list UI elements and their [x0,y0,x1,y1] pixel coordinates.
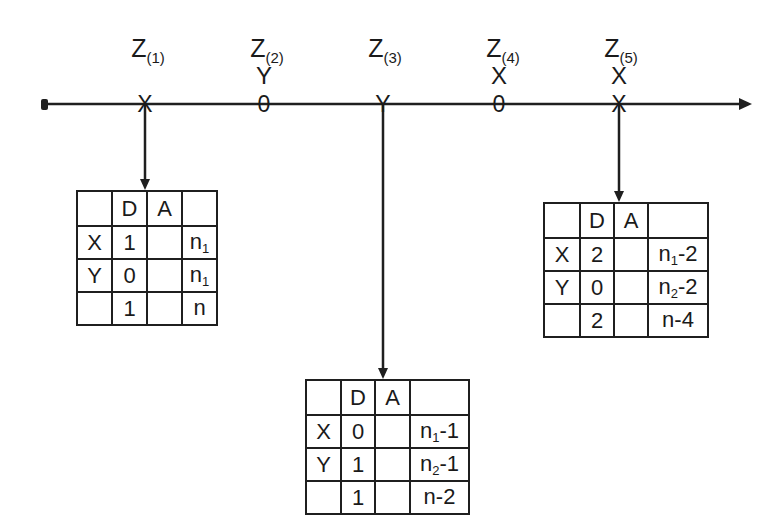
a-value [147,226,182,259]
table-row: Y 1 n2-1 [306,448,469,481]
d-value: 2 [580,238,614,271]
position-label-1: Z(1) [131,36,165,65]
n-value: n1 [182,226,217,259]
n-suffix: -2 [678,241,698,266]
d-value: 0 [341,415,375,448]
position-letter: Z [604,34,619,62]
a-value [375,415,410,448]
n-value: n [182,292,217,325]
n-suffix: -2 [678,274,698,299]
a-value [614,304,648,337]
n-base: n [190,229,202,254]
connector-arrow-1 [140,179,150,190]
above-letter-2: Y [256,64,272,88]
row-label [544,304,580,337]
header-cell-d: D [112,191,147,226]
n-subscript: 1 [671,253,678,268]
table-row: X 0 n1-1 [306,415,469,448]
a-value [375,448,410,481]
n-base: n [190,262,202,287]
table-row: Y 0 n2-2 [544,271,708,304]
n-value: n-2 [410,481,469,514]
d-value: 0 [112,259,147,292]
axis-start-dot [41,99,48,110]
header-cell-empty [306,380,341,415]
n-value: n1-2 [648,238,708,271]
a-value [375,481,410,514]
axis-marker-5-x-mark: X [611,93,626,116]
header-cell-d: D [341,380,375,415]
axis-arrow-head [739,98,752,110]
above-letter-5: X [611,64,627,88]
header-cell-n [410,380,469,415]
row-label: Y [306,448,341,481]
position-label-4: Z(4) [486,36,520,65]
row-label: X [306,415,341,448]
position-label-2: Z(2) [250,36,284,65]
n-base: n [658,274,670,299]
table-row: 1 n-2 [306,481,469,514]
a-value [147,259,182,292]
n-subscript: 1 [202,241,209,256]
n-value: n1-1 [410,415,469,448]
d-value: 1 [112,292,147,325]
axis-marker-1-x-mark: X [137,93,152,116]
table-header-row: D A [544,203,708,238]
d-value: 1 [341,448,375,481]
header-cell-a: A [375,380,410,415]
n-value: n1 [182,259,217,292]
n-value: n2-1 [410,448,469,481]
position-letter: Z [250,34,265,62]
table-header-row: D A [77,191,217,226]
n-base: n [420,451,432,476]
a-value [614,238,648,271]
a-value [614,271,648,304]
n-base: n [420,418,432,443]
n-suffix: -4 [674,307,694,332]
axis-marker-3-y-mark: Y [375,93,390,116]
position-letter: Z [486,34,501,62]
header-cell-n [648,203,708,238]
header-cell-d: D [580,203,614,238]
a-value [147,292,182,325]
row-label [77,292,112,325]
above-letter-4: X [491,64,507,88]
header-cell-empty [77,191,112,226]
n-suffix: -1 [439,418,459,443]
n-suffix: -2 [436,484,456,509]
d-value: 1 [341,481,375,514]
n-base: n [424,484,436,509]
position-letter: Z [131,34,146,62]
count-table-1: D A X 1 n1 Y 0 n1 1 n [76,190,218,326]
header-cell-empty [544,203,580,238]
connector-arrow-3 [378,368,388,379]
table-row: Y 0 n1 [77,259,217,292]
n-value: n-4 [648,304,708,337]
position-letter: Z [368,34,383,62]
row-label: Y [544,271,580,304]
d-value: 2 [580,304,614,337]
connector-arrow-5 [614,191,624,202]
n-base: n [658,241,670,266]
position-index: (3) [383,49,401,66]
header-cell-a: A [614,203,648,238]
table-header-row: D A [306,380,469,415]
count-table-3: D A X 0 n1-1 Y 1 n2-1 1 n-2 [305,379,470,515]
n-base: n [662,307,674,332]
n-subscript: 2 [671,286,678,301]
count-table-5: D A X 2 n1-2 Y 0 n2-2 2 n-4 [543,202,709,338]
axis-marker-2-zero-mark: 0 [258,93,271,116]
position-label-5: Z(5) [604,36,638,65]
row-label: X [544,238,580,271]
table-row: X 2 n1-2 [544,238,708,271]
row-label [306,481,341,514]
header-cell-n [182,191,217,226]
position-label-3: Z(3) [368,36,402,65]
n-value: n2-2 [648,271,708,304]
header-cell-a: A [147,191,182,226]
n-base: n [193,295,205,320]
d-value: 1 [112,226,147,259]
d-value: 0 [580,271,614,304]
table-row: 1 n [77,292,217,325]
n-suffix: -1 [439,451,459,476]
